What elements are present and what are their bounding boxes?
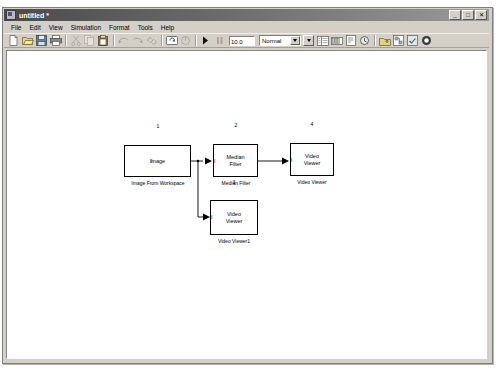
block-image-from-workspace[interactable]: Image [124, 145, 191, 177]
block-video-viewer1[interactable]: Video Viewer [210, 200, 258, 235]
model-advisor-icon[interactable] [406, 34, 419, 47]
window-controls: _ □ ✕ [449, 10, 487, 20]
library-browser-icon[interactable] [330, 34, 343, 47]
block-number-video-viewer: 4 [308, 121, 316, 127]
toolbar-separator [161, 35, 163, 46]
block-diagram: Image I 1 Image From Workspace Median Fi… [7, 51, 486, 358]
go-to-parent-icon[interactable] [378, 34, 391, 47]
menu-simulation[interactable]: Simulation [67, 22, 105, 33]
model-explorer-icon[interactable] [316, 34, 329, 47]
screenshot-root: untitled * _ □ ✕ File Edit View Simulati… [0, 0, 501, 373]
build-model-icon[interactable] [392, 34, 405, 47]
toolbar-separator [65, 35, 67, 46]
toggle-model-browser-icon[interactable] [344, 34, 357, 47]
menu-view[interactable]: View [45, 22, 67, 33]
link-icon[interactable] [145, 34, 158, 47]
close-button[interactable]: ✕ [475, 10, 487, 20]
update-diagram-icon[interactable] [165, 34, 178, 47]
toolbar: 10.0 Normal [4, 33, 489, 48]
block-help-icon[interactable] [420, 34, 433, 47]
toolbar-separator [113, 35, 115, 46]
stop-simulation-icon[interactable] [213, 34, 226, 47]
refresh-icon[interactable] [179, 34, 192, 47]
menu-tools[interactable]: Tools [134, 22, 157, 33]
window-title: untitled * [19, 12, 449, 19]
redo-icon[interactable] [131, 34, 144, 47]
cut-icon[interactable] [69, 34, 82, 47]
block-label-median-filter: Median Filter [226, 154, 244, 167]
window-titlebar[interactable]: untitled * _ □ ✕ [4, 9, 489, 21]
open-folder-icon[interactable] [21, 34, 34, 47]
port-label-median-filter: I [214, 158, 215, 164]
block-caption-video-viewer1: Video Viewer1 [205, 238, 263, 244]
copy-icon[interactable] [83, 34, 96, 47]
chevron-down-icon[interactable] [290, 36, 300, 45]
toolbar-separator [374, 35, 376, 46]
menu-file[interactable]: File [7, 22, 25, 33]
minimize-button[interactable]: _ [449, 10, 461, 20]
block-number-median-filter: 2 [232, 122, 240, 128]
block-caption-image-from-workspace: Image From Workspace [117, 180, 199, 186]
menu-help[interactable]: Help [157, 22, 178, 33]
menubar: File Edit View Simulation Format Tools H… [4, 22, 489, 33]
block-label-video-viewer1: Video Viewer [226, 211, 243, 224]
menu-edit[interactable]: Edit [25, 22, 44, 33]
block-video-viewer[interactable]: Video Viewer [290, 143, 334, 176]
undo-icon[interactable] [117, 34, 130, 47]
toolbar-separator [195, 35, 197, 46]
save-icon[interactable] [35, 34, 48, 47]
block-caption-video-viewer: Video Viewer [285, 179, 339, 185]
sim-mode-extra-dropdown[interactable] [303, 35, 314, 46]
block-label-video-viewer: Video Viewer [304, 153, 321, 166]
block-number-image-from-workspace: 1 [154, 123, 162, 129]
paste-icon[interactable] [97, 34, 110, 47]
simulation-mode-value: Normal [260, 38, 290, 44]
start-simulation-icon[interactable] [199, 34, 212, 47]
stop-time-input[interactable]: 10.0 [229, 36, 255, 46]
simulink-model-window: untitled * _ □ ✕ File Edit View Simulati… [2, 7, 493, 364]
new-model-icon[interactable] [7, 34, 20, 47]
port-label-video-viewer: I [291, 157, 292, 163]
maximize-button[interactable]: □ [462, 10, 474, 20]
block-number-video-viewer1: 3 [230, 179, 238, 185]
simulation-mode-select[interactable]: Normal [259, 35, 301, 46]
model-canvas[interactable]: Image I 1 Image From Workspace Median Fi… [6, 50, 487, 359]
debug-icon[interactable] [358, 34, 371, 47]
block-median-filter[interactable]: Median Filter [213, 144, 258, 177]
port-label-image-from-workspace: I [151, 158, 152, 164]
port-label-video-viewer1: I [211, 214, 212, 220]
print-icon[interactable] [49, 34, 62, 47]
simulink-model-icon [6, 10, 16, 20]
menu-format[interactable]: Format [105, 22, 134, 33]
